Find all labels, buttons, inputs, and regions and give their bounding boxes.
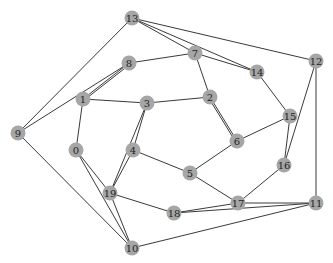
node-label: 4 [130,145,136,156]
node-label: 2 [207,92,213,103]
edge-0-19 [76,150,110,193]
node-label: 7 [192,48,198,59]
edge-7-14 [195,53,257,72]
node-0: 0 [69,143,84,158]
node-label: 12 [310,56,323,67]
edge-18-19 [110,193,174,213]
edge-1-3 [83,99,147,103]
node-label: 13 [126,13,139,24]
edge-4-5 [133,150,190,173]
node-label: 14 [251,67,264,78]
nodes-layer: 012345678910111213141516171819 [11,11,324,256]
node-10: 10 [125,241,140,256]
edge-3-2 [147,97,210,103]
node-13: 13 [125,11,140,26]
edge-2-6 [209,98,236,142]
edge-1-0 [76,99,83,150]
edge-14-15 [257,72,290,116]
node-11: 11 [309,196,324,211]
edge-13-14 [132,18,257,72]
edge-13-7 [132,18,195,53]
edge-17-18 [174,203,238,213]
node-label: 16 [278,160,291,171]
node-label: 3 [144,98,150,109]
node-12: 12 [309,54,324,69]
node-5: 5 [183,166,198,181]
node-2: 2 [203,90,218,105]
node-16: 16 [277,158,292,173]
node-label: 19 [104,188,117,199]
node-1: 1 [76,92,91,107]
edge-13-12 [132,18,316,61]
node-14: 14 [250,65,265,80]
node-4: 4 [126,143,141,158]
node-label: 9 [15,128,21,139]
node-label: 10 [126,243,139,254]
node-7: 7 [188,46,203,61]
node-label: 18 [168,208,181,219]
edge-5-6 [190,141,237,173]
node-label: 17 [232,198,245,209]
node-label: 15 [284,111,297,122]
edge-1-8 [84,64,130,100]
edge-8-7 [129,53,195,63]
edge-8-9 [18,63,129,133]
node-9: 9 [11,126,26,141]
node-label: 0 [73,145,79,156]
node-8: 8 [122,56,137,71]
edge-0-10 [76,150,132,248]
graph-diagram: 012345678910111213141516171819 [0,0,333,263]
node-17: 17 [231,196,246,211]
node-15: 15 [283,109,298,124]
node-19: 19 [103,186,118,201]
edge-2-6 [210,97,237,141]
edge-6-15 [237,116,290,141]
edge-8-1 [83,63,129,99]
node-label: 5 [187,168,193,179]
node-3: 3 [140,96,155,111]
node-label: 6 [234,136,240,147]
node-6: 6 [230,134,245,149]
node-18: 18 [167,206,182,221]
node-label: 11 [310,198,323,209]
node-label: 1 [80,94,86,105]
edge-19-10 [110,193,132,248]
node-label: 8 [126,58,132,69]
